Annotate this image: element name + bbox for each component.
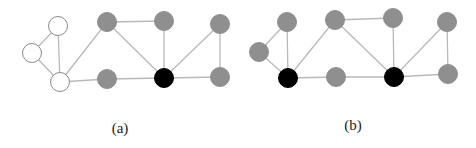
graph-b <box>250 9 458 88</box>
graph-node-black <box>155 69 174 88</box>
graph-a <box>23 12 230 92</box>
graph-node-gray <box>326 11 345 30</box>
caption-b: (b) <box>344 117 362 134</box>
graph-node-gray <box>211 15 230 34</box>
graph-edge <box>288 20 335 78</box>
graph-edge <box>394 22 447 77</box>
graph-node-gray <box>155 12 174 31</box>
graph-figure <box>0 0 476 148</box>
graph-edge <box>107 22 164 78</box>
graph-edge <box>164 24 220 78</box>
graph-node-gray <box>211 68 230 87</box>
graph-a-nodes <box>23 12 230 92</box>
graph-node-white <box>23 44 42 63</box>
graph-node-gray <box>438 13 457 32</box>
graph-node-gray <box>98 70 117 89</box>
caption-a: (a) <box>112 120 129 137</box>
graph-edge <box>335 20 394 77</box>
graph-node-gray <box>327 68 346 87</box>
graph-node-gray <box>439 65 458 84</box>
graph-node-white <box>49 17 68 36</box>
graph-node-gray <box>250 43 269 62</box>
graph-node-black <box>385 68 404 87</box>
graph-node-gray <box>98 13 117 32</box>
graph-node-gray <box>384 9 403 28</box>
graph-node-white <box>51 73 70 92</box>
graph-node-black <box>279 69 298 88</box>
graph-node-gray <box>278 13 297 32</box>
